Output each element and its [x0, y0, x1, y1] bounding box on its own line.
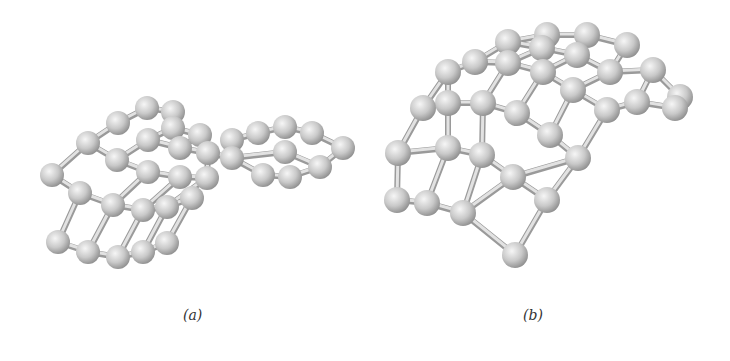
atom	[76, 240, 100, 264]
atom	[168, 136, 192, 160]
atom	[180, 186, 204, 210]
atom	[76, 131, 100, 155]
atom	[300, 121, 324, 145]
atom	[414, 190, 440, 216]
atom	[106, 111, 130, 135]
atom	[273, 140, 297, 164]
atom	[155, 231, 179, 255]
atom	[462, 49, 488, 75]
atom	[470, 90, 496, 116]
atom	[40, 163, 64, 187]
atom	[662, 95, 688, 121]
atom	[640, 57, 666, 83]
atom	[435, 59, 461, 85]
atom	[135, 96, 159, 120]
atom	[196, 141, 220, 165]
atom	[597, 59, 623, 85]
atom	[155, 195, 179, 219]
atom	[101, 193, 125, 217]
atoms-b	[384, 22, 693, 268]
atom	[105, 148, 129, 172]
atom	[308, 155, 332, 179]
atom	[504, 100, 530, 126]
molecule-panel-b	[384, 22, 693, 268]
atom	[435, 135, 461, 161]
atom	[450, 200, 476, 226]
atom	[534, 187, 560, 213]
atom	[195, 166, 219, 190]
atom	[251, 163, 275, 187]
atom	[246, 121, 270, 145]
atom	[106, 245, 130, 269]
atom	[220, 146, 244, 170]
atom	[614, 32, 640, 58]
atom	[564, 42, 590, 68]
atom	[68, 181, 92, 205]
atom	[168, 165, 192, 189]
atom	[331, 136, 355, 160]
atom	[594, 97, 620, 123]
atom	[385, 140, 411, 166]
atoms-a	[40, 96, 355, 269]
atom	[537, 122, 563, 148]
molecule-panel-a	[40, 96, 355, 269]
atom	[495, 50, 521, 76]
atom	[46, 230, 70, 254]
atom	[624, 89, 650, 115]
atom	[560, 77, 586, 103]
atom	[131, 198, 155, 222]
figure-canvas	[0, 0, 730, 361]
atom	[529, 35, 555, 61]
atom	[565, 145, 591, 171]
atom	[500, 164, 526, 190]
panel-label-a: (a)	[183, 307, 202, 323]
atom	[435, 90, 461, 116]
panel-label-b: (b)	[523, 307, 543, 323]
atom	[530, 59, 556, 85]
atom	[410, 95, 436, 121]
atom	[131, 240, 155, 264]
atom	[502, 242, 528, 268]
atom	[384, 187, 410, 213]
atom	[273, 115, 297, 139]
atom	[136, 128, 160, 152]
atom	[469, 142, 495, 168]
atom	[278, 165, 302, 189]
atom	[136, 160, 160, 184]
